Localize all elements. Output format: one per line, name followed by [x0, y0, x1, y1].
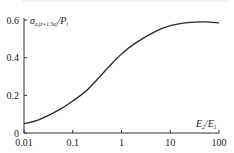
x-tick-label: 0.01: [15, 137, 33, 148]
axes: [24, 18, 219, 133]
y-tick-label: 0: [14, 128, 19, 139]
x-axis-label: E2/E1: [195, 118, 217, 130]
x-tick-label: 10: [165, 137, 175, 148]
y-axis-label: σz,(z=1.5a)/Pi: [30, 15, 68, 28]
y-tick-label: 0.4: [7, 52, 20, 63]
x-tick-label: 1: [119, 137, 124, 148]
y-tick-label: 0.6: [7, 15, 20, 26]
series: [24, 22, 219, 124]
y-tick-label: 0.2: [7, 90, 20, 101]
x-tick-label: 100: [212, 137, 227, 148]
series-line: [24, 22, 219, 124]
chart: 0.010.111010000.20.40.6 σz,(z=1.5a)/Pi E…: [0, 0, 234, 153]
ticks: 0.010.111010000.20.40.6: [7, 15, 227, 149]
x-tick-label: 0.1: [67, 137, 80, 148]
